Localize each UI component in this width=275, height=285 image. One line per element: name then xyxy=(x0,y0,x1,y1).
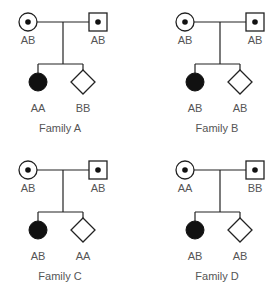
diamond-icon xyxy=(71,218,95,242)
affected-female-icon xyxy=(186,221,204,239)
father-genotype: AB xyxy=(240,34,270,46)
child2-genotype: AB xyxy=(225,250,255,262)
pedigree-b xyxy=(157,0,275,140)
mother-genotype: AA xyxy=(170,182,200,194)
family-label: Family D xyxy=(177,270,257,282)
carrier-female-icon xyxy=(176,161,194,179)
child1-genotype: AB xyxy=(180,250,210,262)
family-label: Family C xyxy=(20,270,100,282)
child1-genotype: AA xyxy=(23,102,53,114)
carrier-male-icon xyxy=(246,161,264,179)
carrier-male-icon xyxy=(246,13,264,31)
affected-female-icon xyxy=(186,73,204,91)
child1-genotype: AB xyxy=(23,250,53,262)
father-genotype: AB xyxy=(83,34,113,46)
father-genotype: BB xyxy=(240,182,270,194)
child2-genotype: BB xyxy=(68,102,98,114)
affected-female-icon xyxy=(29,221,47,239)
mother-genotype: AB xyxy=(13,34,43,46)
diamond-icon xyxy=(228,70,252,94)
diamond-icon xyxy=(71,70,95,94)
carrier-female-icon xyxy=(19,161,37,179)
pedigree-c xyxy=(0,148,135,285)
mother-genotype: AB xyxy=(13,182,43,194)
carrier-female-icon xyxy=(19,13,37,31)
family-c: AB AB AB AA Family C xyxy=(0,148,135,285)
mother-genotype: AB xyxy=(170,34,200,46)
family-label: Family B xyxy=(177,122,257,134)
carrier-female-icon xyxy=(176,13,194,31)
child1-genotype: AB xyxy=(180,102,210,114)
affected-female-icon xyxy=(29,73,47,91)
carrier-male-icon xyxy=(89,161,107,179)
carrier-male-icon xyxy=(89,13,107,31)
family-label: Family A xyxy=(20,122,100,134)
pedigree-d xyxy=(157,148,275,285)
diamond-icon xyxy=(228,218,252,242)
pedigree-a xyxy=(0,0,135,140)
child2-genotype: AB xyxy=(225,102,255,114)
family-b: AB AB AB AB Family B xyxy=(157,0,275,140)
family-d: AA BB AB AB Family D xyxy=(157,148,275,285)
child2-genotype: AA xyxy=(68,250,98,262)
father-genotype: AB xyxy=(83,182,113,194)
family-a: AB AB AA BB Family A xyxy=(0,0,135,140)
